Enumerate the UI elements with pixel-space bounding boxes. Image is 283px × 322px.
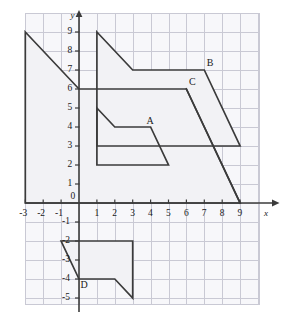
x-axis-tick-label-neg2: -2 xyxy=(37,209,45,219)
shape-label-b: B xyxy=(207,58,214,68)
origin-label: 0 xyxy=(71,192,76,202)
x-axis-tick-label-8: 8 xyxy=(220,209,225,219)
x-axis-tick-label-6: 6 xyxy=(184,209,189,219)
x-axis-name-label: x xyxy=(264,209,268,218)
y-axis-tick-label-4: 4 xyxy=(68,122,73,132)
x-axis-tick-label-1: 1 xyxy=(94,209,99,219)
x-axis-tick-label-4: 4 xyxy=(148,209,153,219)
shape-label-a: A xyxy=(147,116,154,126)
x-axis-tick-label-2: 2 xyxy=(112,209,117,219)
shape-label-d: D xyxy=(81,280,88,290)
y-axis-tick-label-8: 8 xyxy=(68,46,73,56)
x-axis-tick-label-neg3: -3 xyxy=(19,209,27,219)
x-axis-tick-label-5: 5 xyxy=(166,209,171,219)
y-axis-tick-label-9: 9 xyxy=(68,27,73,37)
y-axis-tick-label-neg4: -4 xyxy=(62,274,70,284)
y-axis-tick-label-3: 3 xyxy=(68,141,73,151)
x-axis-tick-label-7: 7 xyxy=(202,209,207,219)
y-axis-tick-label-6: 6 xyxy=(68,84,73,94)
y-axis-name-label: y xyxy=(71,11,75,20)
grid-canvas xyxy=(0,0,283,322)
shape-label-c: C xyxy=(189,77,196,87)
x-axis-tick-label-9: 9 xyxy=(238,209,243,219)
coordinate-grid-figure: -3-2-1123456789987654321-1-2-3-4-50xyBAC… xyxy=(0,0,283,322)
y-axis-tick-label-neg3: -3 xyxy=(62,255,70,265)
y-axis-tick-label-2: 2 xyxy=(68,160,73,170)
y-axis-tick-label-5: 5 xyxy=(68,103,73,113)
x-axis-tick-label-3: 3 xyxy=(130,209,135,219)
y-axis-tick-label-neg1: -1 xyxy=(62,217,70,227)
y-axis-tick-label-neg2: -2 xyxy=(62,236,70,246)
y-axis-tick-label-7: 7 xyxy=(68,65,73,75)
y-axis-tick-label-1: 1 xyxy=(68,179,73,189)
y-axis-tick-label-neg5: -5 xyxy=(62,293,70,303)
x-axis-arrowhead xyxy=(272,200,280,207)
